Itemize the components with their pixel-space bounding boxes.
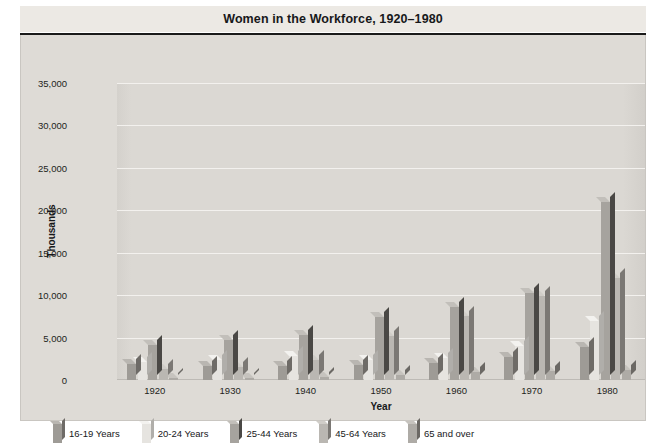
legend-swatch-side: [328, 418, 331, 440]
x-tick-label: 1920: [144, 385, 165, 396]
chart-frame: 05,00010,00015,00020,00025,00030,00035,0…: [20, 35, 646, 421]
chart-legend: 16-19 Years20-24 Years25-44 Years45-64 Y…: [53, 421, 496, 445]
bar-face: [471, 372, 480, 380]
bar-side: [610, 192, 615, 375]
gridline: [117, 210, 645, 211]
legend-item[interactable]: 20-24 Years: [142, 424, 209, 443]
gridline: [117, 253, 645, 254]
bar-side: [157, 335, 162, 375]
legend-swatch-face: [53, 424, 62, 443]
bar-1940-16-19-years: [278, 366, 287, 380]
bar-side: [524, 336, 529, 375]
bar-1930-16-19-years: [203, 366, 212, 380]
bar-side: [620, 268, 625, 375]
legend-label: 25-44 Years: [246, 428, 297, 439]
bar-1960-65-and-over: [471, 372, 480, 380]
chart-title-band: Women in the Workforce, 1920–1980: [20, 6, 646, 32]
bar-1940-65-and-over: [320, 377, 329, 380]
legend-item[interactable]: 16-19 Years: [53, 424, 120, 443]
legend-item[interactable]: 45-64 Years: [319, 424, 386, 443]
y-tick-label: 30,000: [5, 120, 67, 131]
bar-face: [429, 363, 438, 380]
bar-side: [545, 286, 550, 375]
y-tick-label: 5,000: [5, 332, 67, 343]
legend-swatch-side: [417, 418, 420, 440]
x-tick-label: 1940: [295, 385, 316, 396]
y-tick-label: 25,000: [5, 162, 67, 173]
bar-1920-65-and-over: [169, 378, 178, 380]
bar-side: [589, 337, 594, 375]
legend-label: 16-19 Years: [69, 428, 120, 439]
bar-side: [394, 326, 399, 375]
bar-side: [534, 283, 539, 375]
bar-face: [504, 357, 513, 380]
bar-1920-16-19-years: [127, 364, 136, 380]
y-tick-label: 20,000: [5, 205, 67, 216]
x-axis-title: Year: [370, 401, 391, 412]
bar-1950-16-19-years: [354, 365, 363, 380]
legend-label: 45-64 Years: [335, 428, 386, 439]
x-tick-label: 1930: [220, 385, 241, 396]
legend-swatch-face: [230, 424, 239, 443]
chart-title: Women in the Workforce, 1920–1980: [223, 12, 443, 26]
bar-1970-16-19-years: [504, 357, 513, 380]
bar-1930-65-and-over: [245, 378, 254, 380]
bar-side: [459, 297, 464, 375]
legend-swatch: [142, 424, 151, 443]
bar-face: [396, 375, 405, 380]
bar-face: [320, 377, 329, 380]
x-tick-label: 1970: [521, 385, 542, 396]
legend-swatch: [230, 424, 239, 443]
legend-swatch: [53, 424, 62, 443]
bar-face: [169, 378, 178, 380]
bar-side: [308, 325, 313, 375]
bar-face: [278, 366, 287, 380]
bar-face: [203, 366, 212, 380]
legend-label: 20-24 Years: [158, 428, 209, 439]
x-tick-label: 1980: [597, 385, 618, 396]
x-tick-label: 1950: [370, 385, 391, 396]
bar-side: [298, 346, 303, 375]
x-tick-label: 1960: [446, 385, 467, 396]
legend-label: 65 and over: [424, 428, 474, 439]
plot-area: [117, 83, 645, 380]
gridline: [117, 295, 645, 296]
bar-face: [245, 378, 254, 380]
gridline: [117, 125, 645, 126]
legend-item[interactable]: 25-44 Years: [230, 424, 297, 443]
bar-side: [384, 307, 389, 375]
gridline: [117, 168, 645, 169]
bar-1950-65-and-over: [396, 375, 405, 380]
bar-face: [127, 364, 136, 380]
y-tick-label: 15,000: [5, 247, 67, 258]
legend-swatch-side: [62, 418, 65, 440]
gridline: [117, 83, 645, 84]
bar-side: [233, 330, 238, 375]
legend-swatch-face: [408, 424, 417, 443]
legend-swatch: [319, 424, 328, 443]
bar-side: [469, 306, 474, 375]
bar-side: [599, 311, 604, 375]
legend-swatch-face: [319, 424, 328, 443]
bar-face: [354, 365, 363, 380]
y-axis-title: Thousands: [46, 204, 57, 257]
legend-swatch-side: [239, 418, 242, 440]
bar-1980-16-19-years: [580, 347, 589, 380]
y-tick-label: 10,000: [5, 290, 67, 301]
y-tick-label: 35,000: [5, 78, 67, 89]
legend-swatch-side: [151, 418, 154, 440]
bar-1960-16-19-years: [429, 363, 438, 380]
legend-swatch: [408, 424, 417, 443]
legend-item[interactable]: 65 and over: [408, 424, 474, 443]
bar-face: [580, 347, 589, 380]
y-tick-label: 0: [5, 375, 67, 386]
bar-side: [319, 350, 324, 375]
legend-swatch-face: [142, 424, 151, 443]
